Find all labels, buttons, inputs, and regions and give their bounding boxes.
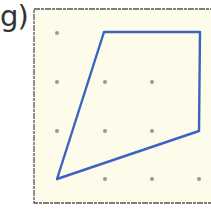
- geoboard-figure: [0, 0, 211, 214]
- grid-frame: [34, 9, 211, 203]
